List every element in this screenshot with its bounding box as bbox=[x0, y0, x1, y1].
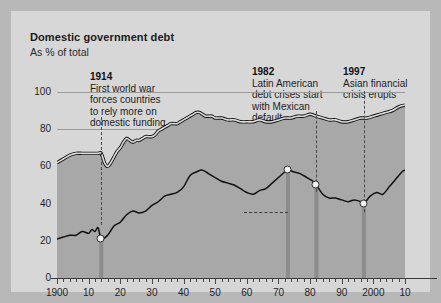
chart-canvas bbox=[57, 92, 405, 278]
x-axis-minor-tick bbox=[70, 279, 71, 282]
y-axis-tick-label: 80 bbox=[21, 123, 51, 134]
advanced-area-fill bbox=[57, 105, 405, 278]
annotation-1997-year: 1997 bbox=[343, 66, 407, 78]
x-axis-minor-tick bbox=[209, 279, 210, 282]
x-axis-minor-tick bbox=[316, 279, 317, 282]
annotation-leader-1973 bbox=[244, 212, 288, 213]
x-axis-minor-tick bbox=[158, 279, 159, 282]
y-axis-tick-label: 40 bbox=[21, 198, 51, 209]
x-axis-minor-tick bbox=[329, 279, 330, 282]
x-axis-minor-tick bbox=[114, 279, 115, 282]
x-axis-tick bbox=[278, 279, 279, 284]
annotation-1982-year: 1982 bbox=[252, 66, 323, 78]
x-axis-minor-tick bbox=[146, 279, 147, 282]
x-axis-minor-tick bbox=[386, 279, 387, 282]
x-axis-minor-tick bbox=[380, 279, 381, 282]
x-axis-minor-tick bbox=[297, 279, 298, 282]
x-axis-minor-tick bbox=[348, 279, 349, 282]
x-axis-minor-tick bbox=[63, 279, 64, 282]
x-axis-tick-label: 10 bbox=[385, 287, 425, 298]
x-axis-minor-tick bbox=[392, 279, 393, 282]
x-axis-minor-tick bbox=[108, 279, 109, 282]
x-axis-minor-tick bbox=[335, 279, 336, 282]
chart-panel: Domestic government debt As % of total 1… bbox=[11, 11, 430, 292]
x-axis-minor-tick bbox=[240, 279, 241, 282]
event-dot-1982 bbox=[312, 181, 320, 189]
x-axis-minor-tick bbox=[266, 279, 267, 282]
x-axis-minor-tick bbox=[354, 279, 355, 282]
x-axis-minor-tick bbox=[228, 279, 229, 282]
plot-area bbox=[57, 92, 405, 278]
x-axis-minor-tick bbox=[203, 279, 204, 282]
x-axis-minor-tick bbox=[76, 279, 77, 282]
x-axis-minor-tick bbox=[304, 279, 305, 282]
x-axis-minor-tick bbox=[177, 279, 178, 282]
x-axis-minor-tick bbox=[367, 279, 368, 282]
x-axis-tick bbox=[247, 279, 248, 284]
x-axis-minor-tick bbox=[361, 279, 362, 282]
x-axis-minor-tick bbox=[196, 279, 197, 282]
event-bar-1914 bbox=[99, 239, 103, 278]
event-dot-1973 bbox=[283, 166, 291, 174]
x-axis-tick bbox=[57, 279, 58, 284]
x-axis-minor-tick bbox=[259, 279, 260, 282]
event-dot-1997 bbox=[359, 199, 367, 207]
x-axis-tick bbox=[215, 279, 216, 284]
chart-subtitle: As % of total bbox=[30, 46, 89, 58]
annotation-leader-1997 bbox=[364, 91, 365, 212]
x-axis-tick bbox=[120, 279, 121, 284]
x-axis-tick bbox=[342, 279, 343, 284]
x-axis-tick bbox=[184, 279, 185, 284]
annotation-1997-line-1: Asian financial bbox=[343, 78, 407, 90]
x-axis-minor-tick bbox=[272, 279, 273, 282]
event-bar-1997 bbox=[362, 204, 366, 278]
x-axis-tick bbox=[405, 279, 406, 284]
annotation-leader-1914 bbox=[101, 117, 102, 225]
annotation-1914-year: 1914 bbox=[90, 71, 166, 83]
x-axis-minor-tick bbox=[127, 279, 128, 282]
event-dot-1914 bbox=[97, 234, 105, 242]
y-axis-tick-label: 0 bbox=[21, 272, 51, 283]
x-axis-tick bbox=[310, 279, 311, 284]
x-axis-tick bbox=[152, 279, 153, 284]
x-axis-minor-tick bbox=[95, 279, 96, 282]
x-axis-minor-tick bbox=[171, 279, 172, 282]
event-bar-1982 bbox=[314, 185, 318, 278]
x-axis-minor-tick bbox=[139, 279, 140, 282]
x-axis-minor-tick bbox=[133, 279, 134, 282]
y-axis-tick-label: 20 bbox=[21, 235, 51, 246]
x-axis-tick bbox=[373, 279, 374, 284]
x-axis-tick bbox=[89, 279, 90, 284]
x-axis-minor-tick bbox=[291, 279, 292, 282]
x-axis-minor-tick bbox=[222, 279, 223, 282]
annotation-1982-line-1: Latin American bbox=[252, 78, 323, 90]
x-axis-minor-tick bbox=[323, 279, 324, 282]
x-axis-minor-tick bbox=[82, 279, 83, 282]
y-axis-tick-label: 60 bbox=[21, 160, 51, 171]
x-axis-minor-tick bbox=[101, 279, 102, 282]
x-axis-minor-tick bbox=[399, 279, 400, 282]
page-title: Domestic government debt bbox=[30, 31, 174, 43]
event-bar-1973 bbox=[286, 170, 290, 278]
x-axis-minor-tick bbox=[234, 279, 235, 282]
x-axis-minor-tick bbox=[253, 279, 254, 282]
x-axis-minor-tick bbox=[285, 279, 286, 282]
x-axis-minor-tick bbox=[190, 279, 191, 282]
x-axis-minor-tick bbox=[165, 279, 166, 282]
y-axis-tick-label: 100 bbox=[21, 86, 51, 97]
chart-figure: Domestic government debt As % of total 1… bbox=[0, 0, 441, 303]
